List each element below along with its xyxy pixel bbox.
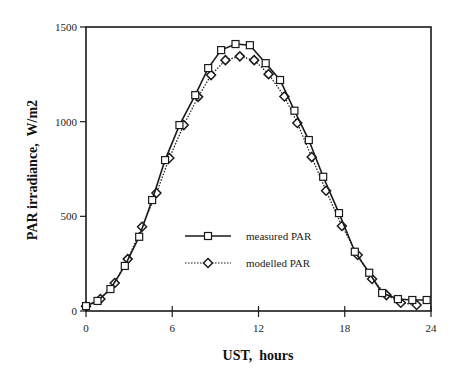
square-marker-icon: [218, 47, 225, 54]
par-irradiance-chart: 050010001500 06121824 measured PAR model…: [0, 0, 456, 383]
x-axis-title: UST, hours: [223, 348, 294, 363]
square-marker-icon: [162, 157, 169, 164]
legend-label-measured: measured PAR: [246, 230, 312, 242]
square-marker-icon: [336, 210, 343, 217]
square-marker-icon: [205, 65, 212, 72]
y-tick-label: 0: [72, 305, 78, 317]
square-marker-icon: [394, 296, 401, 303]
square-marker-icon: [320, 173, 327, 180]
legend-label-modelled: modelled PAR: [246, 257, 311, 269]
square-marker-icon: [305, 137, 312, 144]
square-marker-icon: [423, 297, 430, 304]
square-marker-icon: [351, 248, 358, 255]
square-marker-icon: [121, 262, 128, 269]
square-marker-icon: [94, 297, 101, 304]
y-axis-title: PAR irradiance, W/m2: [25, 100, 40, 240]
square-marker-icon: [149, 197, 156, 204]
y-tick-label: 1000: [55, 116, 78, 128]
x-tick-label: 0: [83, 322, 89, 334]
square-marker-icon: [107, 286, 114, 293]
square-marker-icon: [83, 303, 90, 310]
x-tick-label: 6: [170, 322, 176, 334]
series-measured-par: [83, 41, 431, 310]
diamond-marker-icon: [235, 52, 244, 61]
legend-diamond-marker-icon: [204, 259, 213, 268]
x-tick-label: 24: [426, 322, 438, 334]
x-tick-label: 18: [339, 322, 351, 334]
y-tick-label: 500: [61, 210, 78, 222]
square-marker-icon: [277, 77, 284, 84]
square-marker-icon: [136, 233, 143, 240]
square-marker-icon: [232, 41, 239, 48]
square-marker-icon: [379, 290, 386, 297]
square-marker-icon: [409, 297, 416, 304]
x-tick-label: 12: [253, 322, 264, 334]
legend: measured PAR modelled PAR: [185, 230, 312, 269]
square-marker-icon: [291, 107, 298, 114]
square-marker-icon: [262, 60, 269, 67]
y-axis-ticks: 050010001500: [55, 21, 86, 317]
square-marker-icon: [246, 42, 253, 49]
legend-square-marker-icon: [205, 233, 212, 240]
y-tick-label: 1500: [55, 21, 78, 33]
square-marker-icon: [176, 122, 183, 129]
square-marker-icon: [366, 269, 373, 276]
square-marker-icon: [192, 92, 199, 99]
